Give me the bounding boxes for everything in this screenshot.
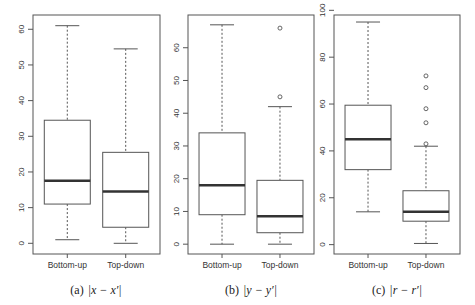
y-tick-label: 80 [318, 52, 327, 61]
iqr-box [103, 152, 149, 227]
outlier-point [278, 95, 282, 99]
caption-prefix: (b) [225, 283, 239, 297]
x-category-label: Top-down [262, 260, 299, 270]
y-tick-label: 0 [318, 242, 327, 247]
iqr-box [403, 191, 449, 221]
y-tick-label: 50 [17, 60, 26, 69]
y-tick-label: 0 [17, 241, 26, 246]
outlier-point [424, 74, 428, 78]
y-tick-label: 20 [318, 193, 327, 202]
iqr-box [44, 120, 90, 204]
outlier-point [424, 86, 428, 90]
box-bottom-up [345, 22, 391, 212]
boxplot-figure: 0102030405060Bottom-upTop-down(a)|x − x′… [0, 0, 475, 305]
outlier-point [424, 121, 428, 125]
caption-prefix: (c) [372, 283, 385, 297]
box-top-down [403, 74, 449, 244]
y-tick-label: 60 [172, 43, 181, 52]
y-tick-label: 40 [172, 108, 181, 117]
x-category-label: Bottom-up [202, 260, 241, 270]
caption-math: |y − y′| [243, 283, 277, 297]
iqr-box [257, 180, 303, 232]
outlier-point [424, 142, 428, 146]
y-tick-label: 20 [172, 174, 181, 183]
panel-caption: (a)|x − x′| [70, 283, 121, 297]
panel-b: 0102030405060Bottom-upTop-down(b)|y − y′… [172, 15, 314, 297]
panel-c: 020406080100Bottom-upTop-down(c)|r − r′| [318, 3, 460, 297]
x-category-label: Bottom-up [48, 260, 87, 270]
box-top-down [257, 26, 303, 244]
y-tick-label: 10 [172, 206, 181, 215]
y-tick-label: 30 [172, 141, 181, 150]
x-category-label: Top-down [107, 260, 144, 270]
outlier-point [278, 26, 282, 30]
x-category-label: Top-down [408, 260, 445, 270]
iqr-box [199, 133, 245, 215]
panel-caption: (c)|r − r′| [372, 283, 422, 297]
box-bottom-up [199, 25, 245, 244]
caption-math: |x − x′| [88, 283, 122, 297]
outlier-point [424, 107, 428, 111]
y-tick-label: 30 [17, 131, 26, 140]
panel-caption: (b)|y − y′| [225, 283, 277, 297]
y-tick-label: 60 [318, 99, 327, 108]
box-bottom-up [44, 26, 90, 240]
y-tick-label: 50 [172, 75, 181, 84]
y-tick-label: 10 [17, 203, 26, 212]
iqr-box [345, 105, 391, 169]
y-tick-label: 0 [172, 241, 181, 246]
box-top-down [103, 49, 149, 243]
y-tick-label: 40 [318, 146, 327, 155]
y-tick-label: 100 [318, 3, 327, 17]
y-tick-label: 60 [17, 24, 26, 33]
y-tick-label: 40 [17, 96, 26, 105]
caption-prefix: (a) [70, 283, 83, 297]
panel-a: 0102030405060Bottom-upTop-down(a)|x − x′… [17, 15, 160, 297]
y-tick-label: 20 [17, 167, 26, 176]
x-category-label: Bottom-up [348, 260, 387, 270]
caption-math: |r − r′| [389, 283, 422, 297]
